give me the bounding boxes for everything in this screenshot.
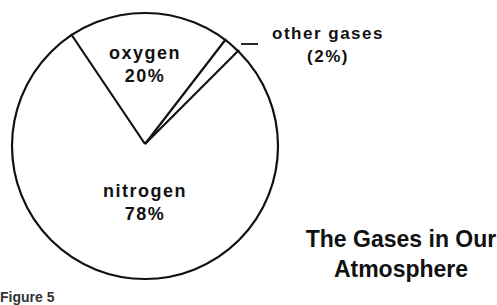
chart-title-line2: Atmosphere [296,254,497,284]
other-gases-percent: (2%) [258,45,398,68]
oxygen-percent: 20% [95,65,195,88]
other-gases-label: other gases (2%) [258,22,398,68]
oxygen-name: oxygen [95,42,195,65]
nitrogen-percent: 78% [85,203,205,226]
figure-caption: Figure 5 [0,289,54,305]
chart-title-line1: The Gases in Our [296,224,497,254]
chart-title: The Gases in Our Atmosphere [296,224,497,284]
other-gases-name: other gases [258,22,398,45]
nitrogen-label: nitrogen 78% [85,180,205,226]
nitrogen-name: nitrogen [85,180,205,203]
oxygen-label: oxygen 20% [95,42,195,88]
